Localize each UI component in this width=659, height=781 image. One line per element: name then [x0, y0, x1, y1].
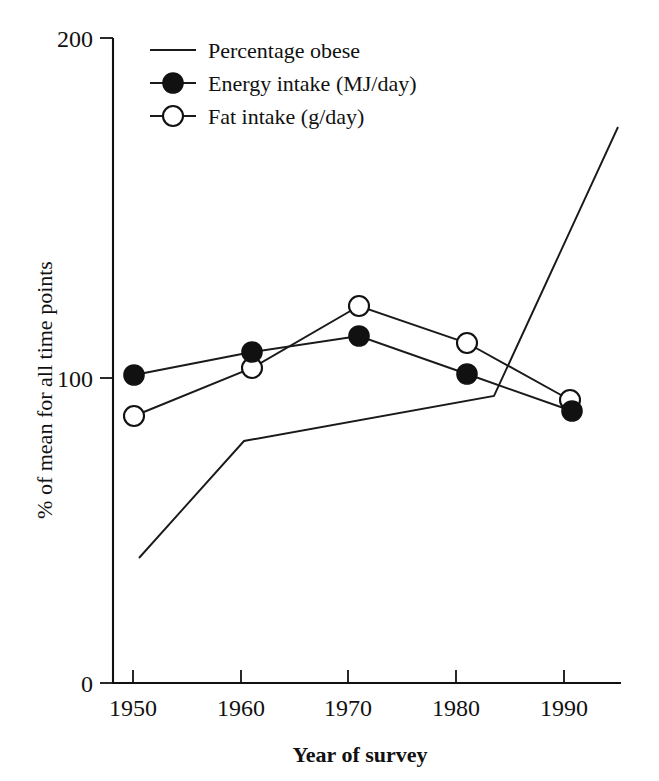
energy-intake-marker-1950: [124, 365, 144, 385]
chart-legend: Percentage obese Energy intake (MJ/day) …: [150, 38, 417, 129]
y-axis-title: % of mean for all time points: [32, 261, 57, 519]
legend-item-fat-intake: Fat intake (g/day): [150, 104, 364, 129]
series-fat-intake: [124, 296, 580, 426]
chart-svg: 200 100 0 1950 1960 1970 1980 1990 Year …: [0, 0, 659, 781]
axis-lines: [113, 38, 621, 683]
legend-label-percentage-obese: Percentage obese: [208, 38, 360, 63]
x-axis-label-1980: 1980: [432, 695, 480, 721]
legend-label-fat-intake: Fat intake (g/day): [208, 104, 364, 129]
x-axis-label-1990: 1990: [540, 695, 588, 721]
chart-figure: 200 100 0 1950 1960 1970 1980 1990 Year …: [0, 0, 659, 781]
legend-item-percentage-obese: Percentage obese: [150, 38, 360, 63]
fat-intake-line: [134, 306, 570, 416]
y-axis-label-0: 0: [81, 671, 93, 697]
open-circle-icon: [163, 106, 183, 126]
energy-intake-marker-1990: [562, 401, 582, 421]
y-axis-label-100: 100: [57, 366, 93, 392]
energy-intake-line: [134, 336, 572, 411]
y-axis-label-200: 200: [57, 26, 93, 52]
x-axis-label-1960: 1960: [217, 695, 265, 721]
filled-circle-icon: [163, 73, 183, 93]
legend-label-energy-intake: Energy intake (MJ/day): [208, 71, 417, 96]
x-axis-title: Year of survey: [292, 742, 427, 767]
legend-item-energy-intake: Energy intake (MJ/day): [150, 71, 417, 96]
energy-intake-marker-1980: [457, 364, 477, 384]
series-energy-intake: [124, 326, 582, 421]
energy-intake-marker-1970: [349, 326, 369, 346]
axis-group: [100, 38, 621, 683]
fat-intake-marker-1980: [457, 333, 477, 353]
x-axis-label-1950: 1950: [109, 695, 157, 721]
x-axis-label-1970: 1970: [324, 695, 372, 721]
fat-intake-marker-1950: [124, 406, 144, 426]
energy-intake-marker-1960: [242, 342, 262, 362]
fat-intake-marker-1970: [349, 296, 369, 316]
